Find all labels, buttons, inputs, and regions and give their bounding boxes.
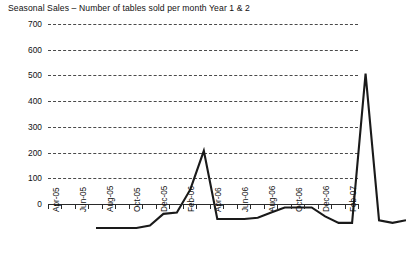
x-tick-mark: [237, 204, 238, 209]
y-tick-label: 100: [0, 173, 42, 183]
x-tick-mark: [115, 204, 116, 209]
x-tick-mark: [250, 204, 251, 209]
x-tick-label: Dec-05: [160, 186, 169, 212]
x-tick-mark: [102, 204, 103, 209]
x-tick-label: Oct-06: [295, 187, 304, 212]
x-tick-label: Apr-05: [52, 187, 61, 212]
x-tick-mark: [291, 204, 292, 209]
x-tick-label: Jun-05: [79, 187, 88, 212]
x-tick-mark: [304, 204, 305, 209]
plot-area: [48, 24, 358, 204]
x-tick-mark: [88, 204, 89, 209]
x-tick-mark: [129, 204, 130, 209]
x-axis-line: [48, 204, 358, 205]
gridline: [48, 24, 358, 25]
x-tick-label: Apr-06: [214, 187, 223, 212]
x-tick-label: Aug-06: [268, 186, 277, 212]
y-tick-label: 300: [0, 122, 42, 132]
x-tick-label: Dec-06: [322, 186, 331, 212]
x-tick-label: Feb-07: [349, 186, 358, 212]
x-tick-mark: [345, 204, 346, 209]
y-tick-label: 200: [0, 148, 42, 158]
x-tick-mark: [210, 204, 211, 209]
series-line-units-sold: [96, 48, 406, 228]
x-tick-mark: [48, 204, 49, 209]
x-tick-mark: [61, 204, 62, 209]
x-tick-mark: [156, 204, 157, 209]
x-tick-mark: [264, 204, 265, 209]
x-tick-mark: [358, 204, 359, 209]
chart-title: Seasonal Sales – Number of tables sold p…: [8, 3, 250, 13]
x-tick-label: Oct-05: [133, 187, 142, 212]
y-tick-label: 0: [0, 199, 42, 209]
x-tick-mark: [196, 204, 197, 209]
y-tick-label: 500: [0, 70, 42, 80]
x-tick-label: Jun-06: [241, 187, 250, 212]
x-tick-mark: [331, 204, 332, 209]
x-tick-mark: [169, 204, 170, 209]
x-tick-mark: [318, 204, 319, 209]
x-tick-mark: [142, 204, 143, 209]
y-tick-label: 700: [0, 19, 42, 29]
x-tick-mark: [223, 204, 224, 209]
x-tick-label: Aug-05: [106, 186, 115, 212]
y-tick-label: 600: [0, 45, 42, 55]
y-tick-label: 400: [0, 96, 42, 106]
x-tick-mark: [277, 204, 278, 209]
x-tick-mark: [75, 204, 76, 209]
x-tick-label: Feb-06: [187, 186, 196, 212]
x-tick-mark: [183, 204, 184, 209]
